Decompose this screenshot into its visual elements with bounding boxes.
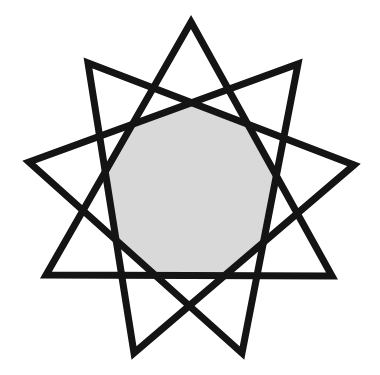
nine-pointed-star-figure: Nine-pointed star {9/3} formed by three … <box>0 0 380 375</box>
